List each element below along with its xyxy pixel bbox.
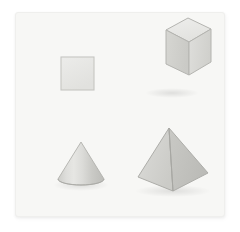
shape-canvas: [16, 13, 224, 216]
pyramid-right-face: [169, 128, 208, 191]
shape-cone: [53, 142, 109, 191]
shape-cube: [145, 18, 211, 98]
shape-pyramid: [135, 128, 211, 197]
pyramid-left-face: [138, 128, 173, 191]
shape-card: Square Cube Cone Pyramid Geometric shape…: [15, 12, 225, 217]
cube-ground-shadow: [145, 88, 199, 98]
square-face: [61, 57, 94, 90]
illustration-stage: Square Cube Cone Pyramid Geometric shape…: [0, 0, 240, 232]
cone-body: [58, 142, 104, 185]
shape-square: [61, 57, 94, 90]
